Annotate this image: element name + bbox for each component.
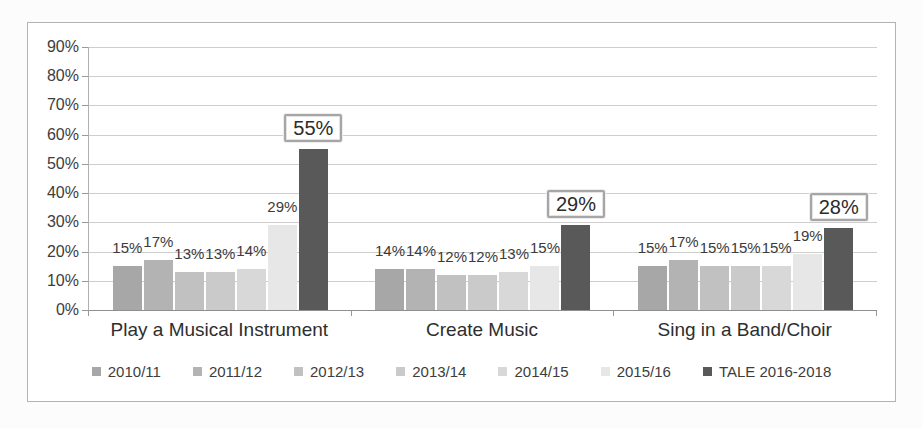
bar-value-label: 12% <box>437 249 467 265</box>
x-axis-tick <box>351 311 352 316</box>
y-tick-label: 90% <box>33 38 79 56</box>
y-axis-tick <box>82 281 88 282</box>
bar-value-label: 13% <box>499 246 529 262</box>
y-tick-label: 20% <box>33 243 79 261</box>
bar <box>731 266 760 310</box>
legend-item: 2012/13 <box>294 363 364 380</box>
legend-label: 2014/15 <box>514 363 568 380</box>
y-axis-tick <box>82 222 88 223</box>
legend-marker <box>193 367 202 376</box>
category-axis: Play a Musical InstrumentCreate MusicSin… <box>88 319 876 345</box>
bar-column: 14% <box>406 243 435 310</box>
y-axis-tick <box>82 47 88 48</box>
legend-label: 2011/12 <box>209 363 262 380</box>
bar <box>437 275 466 310</box>
category-label: Create Music <box>351 319 614 341</box>
bar <box>468 275 497 310</box>
bar-column: 12% <box>437 249 466 310</box>
bar <box>268 225 297 310</box>
callout-value-label: 55% <box>284 114 342 142</box>
y-axis-tick <box>82 105 88 106</box>
bar-value-label: 15% <box>112 240 142 256</box>
legend-marker <box>703 367 712 376</box>
y-axis-tick <box>82 252 88 253</box>
bar-column: 17% <box>144 234 173 310</box>
bar-value-label: 14% <box>406 243 436 259</box>
bar-column: 15% <box>762 240 791 310</box>
callout-value-label: 29% <box>547 190 605 218</box>
y-tick-label: 30% <box>33 213 79 231</box>
bar <box>530 266 559 310</box>
bar-value-label: 29% <box>267 199 297 215</box>
bar-column: 15% <box>113 240 142 310</box>
bar <box>700 266 729 310</box>
y-tick-label: 70% <box>33 96 79 114</box>
bar <box>113 266 142 310</box>
bar <box>561 225 590 310</box>
x-axis-tick <box>876 311 877 316</box>
callout-value-label: 28% <box>810 193 868 221</box>
legend-marker <box>601 367 610 376</box>
bar-group: 14%14%12%12%13%15%29% <box>352 47 615 310</box>
bar-column: 14% <box>375 243 404 310</box>
bar-value-label: 14% <box>236 243 266 259</box>
y-tick-label: 80% <box>33 67 79 85</box>
bar-value-label: 15% <box>638 240 668 256</box>
bar-value-label: 12% <box>468 249 498 265</box>
page: 15%17%13%13%14%29%55%14%14%12%12%13%15%2… <box>0 0 922 428</box>
legend-item: 2014/15 <box>498 363 568 380</box>
bar <box>299 149 328 310</box>
y-tick-label: 0% <box>33 301 79 319</box>
category-label: Sing in a Band/Choir <box>613 319 876 341</box>
bar-column: 29% <box>561 190 590 310</box>
bar-value-label: 15% <box>731 240 761 256</box>
y-axis-tick <box>82 135 88 136</box>
bar-column: 14% <box>237 243 266 310</box>
legend-label: 2013/14 <box>412 363 466 380</box>
legend: 2010/112011/122012/132013/142014/152015/… <box>28 363 895 380</box>
y-axis-tick <box>82 193 88 194</box>
bar <box>499 272 528 310</box>
bar-column: 13% <box>499 246 528 310</box>
bar-value-label: 15% <box>762 240 792 256</box>
bar-column: 17% <box>669 234 698 310</box>
bar <box>793 254 822 310</box>
legend-item: 2010/11 <box>92 363 161 380</box>
bar-value-label: 17% <box>669 234 699 250</box>
bar <box>206 272 235 310</box>
bar-column: 13% <box>175 246 204 310</box>
x-axis-tick <box>88 311 89 316</box>
legend-marker <box>396 367 405 376</box>
bar-column: 15% <box>638 240 667 310</box>
bar-column: 55% <box>299 114 328 310</box>
y-tick-label: 60% <box>33 126 79 144</box>
bar <box>375 269 404 310</box>
legend-item: TALE 2016-2018 <box>703 363 831 380</box>
bar-column: 15% <box>530 240 559 310</box>
y-tick-label: 40% <box>33 184 79 202</box>
bar-group: 15%17%15%15%15%19%28% <box>614 47 877 310</box>
x-axis-tick <box>613 311 614 316</box>
bar-column: 15% <box>700 240 729 310</box>
bar-value-label: 14% <box>375 243 405 259</box>
y-axis-tick <box>82 76 88 77</box>
bar-column: 15% <box>731 240 760 310</box>
legend-marker <box>294 367 303 376</box>
legend-item: 2015/16 <box>601 363 671 380</box>
bar-column: 19% <box>793 228 822 310</box>
legend-marker <box>92 367 101 376</box>
bar-value-label: 13% <box>174 246 204 262</box>
legend-label: 2015/16 <box>617 363 671 380</box>
bar <box>406 269 435 310</box>
bar <box>175 272 204 310</box>
bar-column: 28% <box>824 193 853 310</box>
bar-group: 15%17%13%13%14%29%55% <box>89 47 352 310</box>
bar-column: 12% <box>468 249 497 310</box>
bar-value-label: 15% <box>700 240 730 256</box>
bar <box>669 260 698 310</box>
legend-item: 2013/14 <box>396 363 466 380</box>
bar <box>237 269 266 310</box>
y-axis-tick <box>82 164 88 165</box>
legend-marker <box>498 367 507 376</box>
legend-label: 2012/13 <box>310 363 364 380</box>
